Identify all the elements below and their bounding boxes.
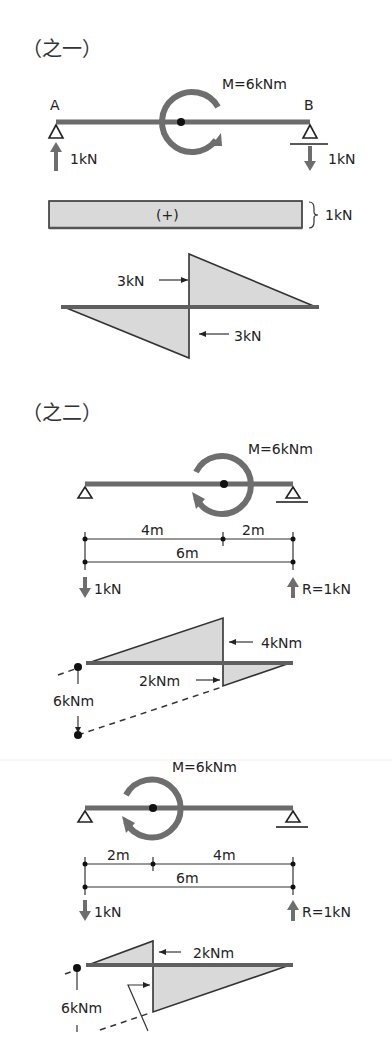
upper-value-label: 2kNm: [193, 945, 234, 961]
roller-support-icon: [303, 125, 317, 138]
section2-case-a-beam: M=6kNm 4m 2m 6m 1kN R=1kN: [78, 441, 351, 598]
pin-support-icon: [49, 125, 63, 138]
support-b-label: B: [304, 97, 314, 113]
left-reaction-label: 1kN: [94, 581, 122, 597]
up-arrow-icon: [287, 900, 299, 921]
positive-triangle: [88, 941, 153, 965]
dimension-lines: 4m 2m 6m: [83, 522, 296, 570]
dim-left: 4m: [141, 522, 164, 538]
dim-right: 4m: [213, 847, 236, 863]
negative-triangle: [153, 965, 290, 1012]
moment-label: M=6kNm: [172, 759, 237, 775]
structural-diagrams: （之一） A B M=6kNm 1kN 1kN (+) 1kN 3kN: [0, 0, 392, 1045]
roller-support-icon: [286, 811, 300, 822]
shear-value: 1kN: [325, 207, 353, 223]
brace-icon: [309, 202, 318, 228]
dim-right: 2m: [242, 522, 265, 538]
left-reaction-label: 1kN: [94, 904, 122, 920]
up-arrow-icon: [287, 577, 299, 598]
down-arrow-icon: [304, 146, 316, 171]
lower-value-label: 3kN: [234, 328, 262, 344]
side-value-label: 6kNm: [53, 693, 94, 709]
section2-case-a-moment-diagram: 6kNm 4kNm 2kNm: [53, 618, 302, 739]
moment-point: [177, 118, 185, 126]
section1-beam-diagram: A B M=6kNm 1kN 1kN: [49, 76, 356, 171]
positive-triangle: [88, 618, 223, 663]
moment-point: [149, 804, 157, 812]
dimension-lines: 2m 4m 6m: [83, 847, 296, 895]
down-arrow-icon: [79, 577, 91, 598]
moment-point: [220, 480, 228, 488]
section1-title: （之一）: [22, 37, 102, 61]
negative-triangle: [223, 663, 290, 686]
right-reaction-label: R=1kN: [302, 581, 351, 597]
section1-moment-diagram: 3kN 3kN: [61, 254, 319, 358]
lower-triangle: [64, 307, 189, 358]
section2-title: （之二）: [22, 401, 102, 425]
upper-triangle: [189, 254, 316, 307]
up-arrow-icon: [50, 142, 62, 171]
section1-shear-diagram: (+) 1kN: [49, 201, 353, 228]
pin-support-icon: [78, 811, 92, 822]
shear-sign: (+): [156, 207, 179, 223]
upper-value-label: 3kN: [117, 273, 145, 289]
left-reaction-label: 1kN: [70, 151, 98, 167]
upper-value-label: 4kNm: [261, 635, 302, 651]
lower-value-label: 2kNm: [139, 673, 180, 689]
section2-case-b-beam: M=6kNm 2m 4m 6m 1kN R=1kN: [78, 759, 351, 921]
right-reaction-label: 1kN: [328, 151, 356, 167]
down-arrow-icon: [79, 900, 91, 921]
roller-support-icon: [286, 487, 300, 498]
support-a-label: A: [50, 97, 60, 113]
dim-total: 6m: [176, 545, 199, 561]
section2-case-b-moment-diagram: 6kNm 2kNm: [61, 941, 293, 1032]
dim-total: 6m: [176, 870, 199, 886]
moment-label: M=6kNm: [222, 76, 287, 92]
moment-label: M=6kNm: [248, 441, 313, 457]
side-value-label: 6kNm: [61, 1000, 102, 1016]
pin-support-icon: [78, 487, 92, 498]
right-reaction-label: R=1kN: [302, 904, 351, 920]
dim-left: 2m: [107, 847, 130, 863]
